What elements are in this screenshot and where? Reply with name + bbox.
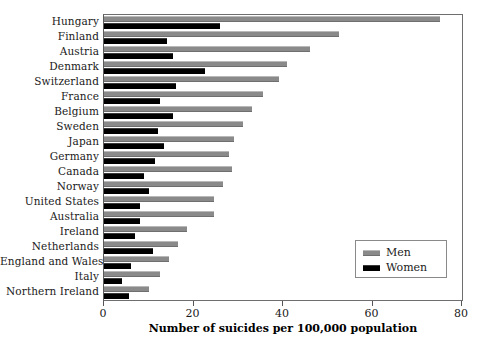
bar-women bbox=[104, 23, 220, 29]
bar-men bbox=[104, 211, 214, 217]
bar-men bbox=[104, 31, 339, 37]
category-label: Northern Ireland bbox=[0, 286, 99, 297]
legend-swatch-men bbox=[363, 250, 380, 256]
bar-women bbox=[104, 218, 140, 224]
bar-women bbox=[104, 113, 173, 119]
category-label: Norway bbox=[0, 181, 99, 192]
category-label: Switzerland bbox=[0, 76, 99, 87]
bar-women bbox=[104, 68, 205, 74]
x-tick-label: 60 bbox=[365, 307, 379, 320]
category-label: Canada bbox=[0, 166, 99, 177]
suicide-rate-bar-chart: HungaryFinlandAustriaDenmarkSwitzerlandF… bbox=[0, 0, 483, 349]
x-tick-mark bbox=[103, 301, 104, 306]
legend-item: Men bbox=[363, 245, 446, 260]
category-label: United States bbox=[0, 196, 99, 207]
x-tick-mark bbox=[461, 301, 462, 306]
bar-women bbox=[104, 143, 164, 149]
bar-women bbox=[104, 233, 135, 239]
bar-men bbox=[104, 241, 178, 247]
x-tick-label: 40 bbox=[275, 307, 289, 320]
bar-women bbox=[104, 248, 153, 254]
bar-men bbox=[104, 256, 169, 262]
x-tick-label: 0 bbox=[100, 307, 107, 320]
category-label: Netherlands bbox=[0, 241, 99, 252]
category-label: Belgium bbox=[0, 106, 99, 117]
bar-men bbox=[104, 61, 287, 67]
bar-men bbox=[104, 46, 310, 52]
category-label: Sweden bbox=[0, 121, 99, 132]
legend-item: Women bbox=[363, 260, 446, 275]
bar-women bbox=[104, 203, 140, 209]
bar-men bbox=[104, 286, 149, 292]
category-label: Austria bbox=[0, 46, 99, 57]
bar-men bbox=[104, 16, 440, 22]
bar-men bbox=[104, 136, 234, 142]
category-label: Italy bbox=[0, 271, 99, 282]
category-label: Germany bbox=[0, 151, 99, 162]
category-label: France bbox=[0, 91, 99, 102]
bar-women bbox=[104, 173, 144, 179]
x-tick-label: 20 bbox=[186, 307, 200, 320]
bar-men bbox=[104, 121, 243, 127]
x-tick-label: 80 bbox=[454, 307, 468, 320]
x-axis-title: Number of suicides per 100,000 populatio… bbox=[103, 322, 463, 335]
legend-label: Women bbox=[386, 261, 427, 274]
bar-women bbox=[104, 263, 131, 269]
chart-legend: MenWomen bbox=[355, 240, 447, 278]
category-label: Japan bbox=[0, 136, 99, 147]
category-label: Hungary bbox=[0, 16, 99, 27]
bar-men bbox=[104, 76, 279, 82]
category-label: Ireland bbox=[0, 226, 99, 237]
bar-men bbox=[104, 196, 214, 202]
bar-women bbox=[104, 128, 158, 134]
bar-men bbox=[104, 181, 223, 187]
x-tick-mark bbox=[372, 301, 373, 306]
bar-women bbox=[104, 188, 149, 194]
bar-men bbox=[104, 166, 232, 172]
bar-men bbox=[104, 226, 187, 232]
bar-men bbox=[104, 91, 263, 97]
bar-women bbox=[104, 53, 173, 59]
bar-women bbox=[104, 38, 167, 44]
category-label: Denmark bbox=[0, 61, 99, 72]
bar-men bbox=[104, 271, 160, 277]
bar-women bbox=[104, 278, 122, 284]
category-label: Finland bbox=[0, 31, 99, 42]
category-label: Australia bbox=[0, 211, 99, 222]
x-tick-mark bbox=[282, 301, 283, 306]
bar-men bbox=[104, 151, 229, 157]
bar-men bbox=[104, 106, 252, 112]
bar-women bbox=[104, 83, 176, 89]
x-tick-mark bbox=[193, 301, 194, 306]
category-axis-labels: HungaryFinlandAustriaDenmarkSwitzerlandF… bbox=[0, 14, 99, 301]
legend-label: Men bbox=[386, 246, 411, 259]
bar-women bbox=[104, 158, 155, 164]
legend-swatch-women bbox=[363, 265, 380, 271]
category-label: England and Wales bbox=[0, 256, 99, 267]
bar-women bbox=[104, 98, 160, 104]
bar-women bbox=[104, 293, 129, 299]
